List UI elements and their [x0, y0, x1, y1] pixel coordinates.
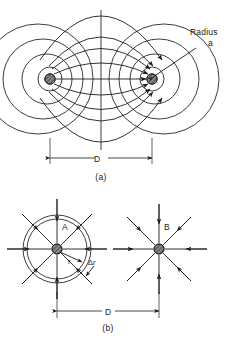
radius-leader-line — [153, 48, 196, 77]
figure-svg: Radius a D (a) — [0, 0, 235, 344]
panel-a: Radius a D (a) — [0, 10, 219, 182]
panel-b: r Δr A — [7, 199, 207, 333]
dimension-label-D-b: D — [105, 307, 111, 317]
caption-a: (a) — [95, 172, 107, 182]
figure-container: Radius a D (a) — [0, 0, 235, 344]
delta-r-label: Δr — [88, 258, 96, 267]
caption-b: (b) — [102, 323, 114, 333]
radius-r-label: r — [68, 257, 71, 266]
point-label-B: B — [164, 222, 170, 232]
delta-r-leader — [86, 266, 94, 276]
radius-label-line2: a — [208, 38, 213, 48]
radius-r-arrow — [60, 252, 82, 262]
conductor-left-a — [45, 74, 55, 84]
radius-label-line1: Radius — [190, 27, 218, 37]
point-label-A: A — [62, 222, 68, 232]
conductor-right-b — [154, 244, 164, 254]
dimension-label-D-a: D — [94, 154, 100, 164]
